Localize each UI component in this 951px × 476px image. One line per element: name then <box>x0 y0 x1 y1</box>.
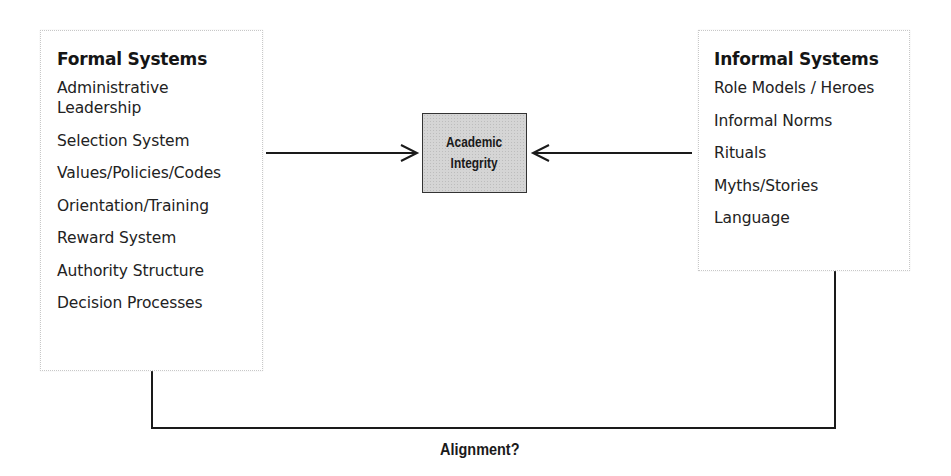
formal-item: Values/Policies/Codes <box>57 163 257 183</box>
formal-item: Authority Structure <box>57 261 257 281</box>
arrow-formal-to-integrity <box>266 145 417 161</box>
informal-item: Role Models / Heroes <box>714 78 909 98</box>
informal-systems-box: Informal Systems Role Models / Heroes In… <box>698 30 910 271</box>
informal-item: Rituals <box>714 143 909 163</box>
alignment-label-wrap: Alignment? <box>0 440 951 460</box>
formal-item: Decision Processes <box>57 293 257 313</box>
formal-item: Reward System <box>57 228 257 248</box>
informal-item: Language <box>714 208 909 228</box>
alignment-label: Alignment? <box>440 440 519 460</box>
informal-item: Myths/Stories <box>714 176 909 196</box>
formal-systems-title: Formal Systems <box>57 49 262 69</box>
formal-systems-box: Formal Systems Administrative Leadership… <box>40 30 263 371</box>
formal-item: Orientation/Training <box>57 196 257 216</box>
formal-item: Selection System <box>57 131 257 151</box>
informal-systems-title: Informal Systems <box>714 49 909 69</box>
academic-integrity-label: Academic Integrity <box>446 132 502 174</box>
informal-item: Informal Norms <box>714 111 909 131</box>
academic-integrity-box: Academic Integrity <box>422 113 527 193</box>
arrow-informal-to-integrity <box>533 145 692 161</box>
formal-item: Administrative Leadership <box>57 78 257 118</box>
